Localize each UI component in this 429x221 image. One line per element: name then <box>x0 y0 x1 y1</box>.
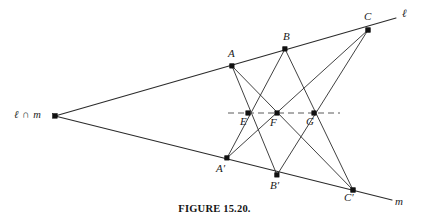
line-m <box>55 116 392 200</box>
label-point-c: C <box>364 11 371 22</box>
segment-c-aprime <box>227 30 368 158</box>
label-point-g: G <box>306 116 314 127</box>
point-dot-intersection <box>53 114 58 119</box>
pappus-diagram-svg <box>0 0 429 221</box>
label-point-b: B <box>283 31 290 42</box>
point-dot-f <box>275 111 279 115</box>
label-point-e: E <box>240 116 247 127</box>
point-dot-a-prime <box>225 156 229 160</box>
label-line-l: ℓ <box>402 8 407 19</box>
label-point-a: A <box>228 48 235 59</box>
point-dot-c <box>366 28 371 33</box>
point-dot-b <box>283 47 287 51</box>
label-point-a-prime: A′ <box>216 163 225 174</box>
segment-c-bprime <box>277 30 368 175</box>
segment-a-cprime <box>232 66 353 190</box>
point-dot-b-prime <box>275 173 279 177</box>
label-point-f: F <box>270 117 277 128</box>
segment-b-aprime <box>227 49 285 158</box>
label-l-intersect-m: ℓ ∩ m <box>14 109 41 120</box>
pappus-figure: ℓ ∩ m ℓ m A B C A′ B′ C′ E F G FIGURE 15… <box>0 0 429 221</box>
label-point-c-prime: C′ <box>344 192 354 203</box>
figure-caption: FIGURE 15.20. <box>0 203 429 214</box>
label-point-b-prime: B′ <box>270 180 279 191</box>
point-dot-a <box>230 64 234 68</box>
